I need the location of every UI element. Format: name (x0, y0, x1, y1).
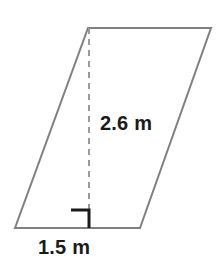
figure-canvas: 2.6 m 1.5 m (0, 0, 220, 268)
parallelogram-svg (0, 0, 220, 268)
height-dimension-label: 2.6 m (100, 113, 152, 133)
base-dimension-label: 1.5 m (38, 237, 90, 257)
